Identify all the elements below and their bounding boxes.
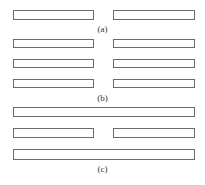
panel-b-row2-bar-left xyxy=(13,59,94,68)
panel-b-row1-bar-left xyxy=(13,39,94,48)
panel-c-label: (c) xyxy=(0,164,205,174)
panel-c-row1-bar-full xyxy=(13,107,195,117)
panel-b-row2-bar-right xyxy=(113,59,195,68)
panel-a-bar-right xyxy=(113,10,195,20)
panel-a-bar-left xyxy=(13,10,94,20)
panel-c-row3-bar-full xyxy=(13,149,195,160)
panel-b-row1-bar-right xyxy=(113,39,195,48)
panel-c-row2-bar-right xyxy=(113,128,195,138)
panel-b-row3-bar-left xyxy=(13,79,94,88)
panel-a-label: (a) xyxy=(0,24,205,34)
panel-b-row3-bar-right xyxy=(113,79,195,88)
panel-c-row2-bar-left xyxy=(13,128,94,138)
panel-b-label: (b) xyxy=(0,93,205,103)
